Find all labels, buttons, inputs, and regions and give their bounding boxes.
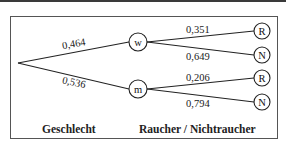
node-w-R-label: R: [258, 26, 265, 37]
node-w: w: [129, 33, 147, 51]
node-m-N-label: N: [258, 97, 266, 108]
node-m: m: [129, 80, 147, 98]
probability-tree: 0,464 0,536 0,351 0,649 0,206 0,794 w m …: [0, 0, 286, 147]
prob-label-m-R: 0,206: [186, 72, 210, 83]
prob-label-m-N: 0,794: [186, 98, 210, 109]
node-m-R: R: [254, 70, 270, 86]
node-m-R-label: R: [258, 73, 265, 84]
node-w-label: w: [134, 37, 142, 48]
caption-level2: Raucher / Nichtraucher: [139, 123, 256, 135]
prob-label-w-N: 0,649: [186, 51, 210, 62]
prob-label-w: 0,464: [61, 36, 87, 51]
caption-level1: Geschlecht: [42, 123, 96, 135]
prob-label-m: 0,536: [61, 74, 86, 90]
node-w-N-label: N: [258, 50, 266, 61]
node-m-N: N: [254, 94, 270, 110]
node-w-R: R: [254, 23, 270, 39]
node-m-label: m: [134, 84, 142, 95]
prob-label-w-R: 0,351: [186, 24, 210, 35]
node-w-N: N: [254, 47, 270, 63]
